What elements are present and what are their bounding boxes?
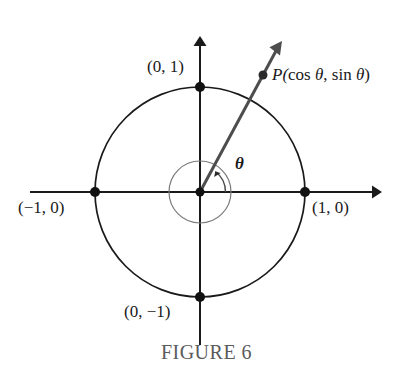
- point-label-comma: ,: [323, 65, 332, 84]
- x-axis: [30, 186, 382, 199]
- coordinate-label-right: (1, 0): [312, 199, 349, 216]
- point-label-suffix: ): [364, 65, 370, 84]
- x-axis-arrowhead-icon: [372, 186, 382, 199]
- angle-label-theta: θ: [235, 155, 244, 172]
- point-label-cos: cos: [288, 65, 315, 84]
- figure-caption: FIGURE 6: [0, 341, 413, 364]
- point-marker-origin: [196, 188, 205, 197]
- theta-arc: [214, 172, 225, 193]
- point-label-p: P(cos θ, sin θ): [272, 66, 370, 83]
- point-marker-p: [259, 71, 268, 80]
- coordinate-label-bottom: (0, −1): [124, 303, 170, 320]
- y-axis-arrowhead-icon: [194, 36, 207, 46]
- point-marker-top: [195, 82, 205, 92]
- point-label-sin: sin: [332, 65, 356, 84]
- point-marker-left: [90, 187, 100, 197]
- unit-circle-diagram: [0, 0, 413, 374]
- point-marker-right: [300, 187, 310, 197]
- coordinate-label-top: (0, 1): [147, 58, 184, 75]
- coordinate-label-left: (−1, 0): [18, 199, 64, 216]
- point-label-prefix: P(: [272, 65, 288, 84]
- point-marker-bottom: [195, 292, 205, 302]
- figure-container: (0, 1) (0, −1) (−1, 0) (1, 0) P(cos θ, s…: [0, 0, 413, 374]
